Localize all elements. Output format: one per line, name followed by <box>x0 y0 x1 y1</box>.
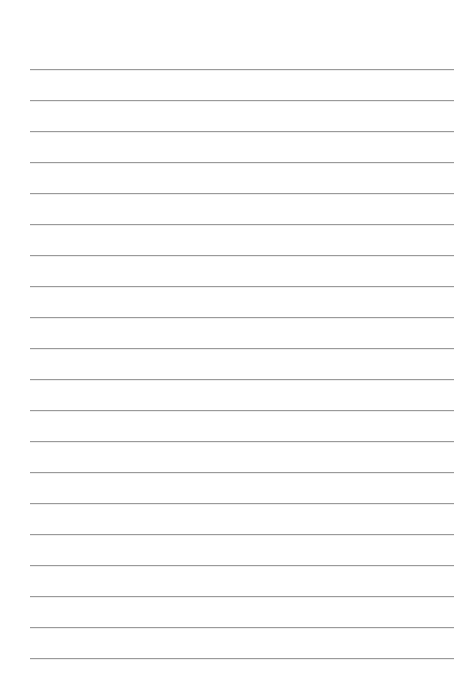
ruled-line <box>30 286 454 287</box>
ruled-line <box>30 224 454 225</box>
ruled-line <box>30 100 454 101</box>
ruled-line <box>30 379 454 380</box>
ruled-line <box>30 627 454 628</box>
ruled-line <box>30 193 454 194</box>
ruled-line <box>30 441 454 442</box>
ruled-line <box>30 255 454 256</box>
ruled-line <box>30 534 454 535</box>
ruled-line <box>30 658 454 659</box>
ruled-line <box>30 596 454 597</box>
ruled-line <box>30 348 454 349</box>
ruled-line <box>30 472 454 473</box>
ruled-line <box>30 69 454 70</box>
ruled-line <box>30 131 454 132</box>
ruled-line <box>30 162 454 163</box>
ruled-line <box>30 565 454 566</box>
ruled-line <box>30 317 454 318</box>
ruled-line <box>30 410 454 411</box>
ruled-line <box>30 503 454 504</box>
lined-paper-page <box>0 0 475 695</box>
